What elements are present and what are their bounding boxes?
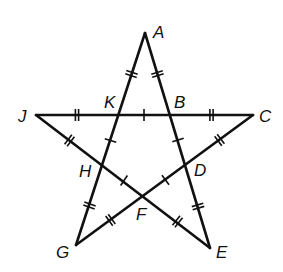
segment-AG xyxy=(76,33,145,245)
point-label-E: E xyxy=(216,243,228,262)
point-label-K: K xyxy=(104,93,116,112)
pentagram-figure: ACEGJKBDFH xyxy=(0,0,283,272)
point-label-C: C xyxy=(259,107,272,126)
point-label-D: D xyxy=(194,161,206,180)
point-label-G: G xyxy=(56,243,69,262)
point-label-F: F xyxy=(136,205,148,224)
point-label-B: B xyxy=(174,93,185,112)
point-label-J: J xyxy=(17,107,27,126)
point-label-A: A xyxy=(152,23,164,42)
segment-CG xyxy=(76,115,253,245)
point-label-H: H xyxy=(79,162,92,181)
pentagram-diagram: ACEGJKBDFH xyxy=(0,0,283,272)
